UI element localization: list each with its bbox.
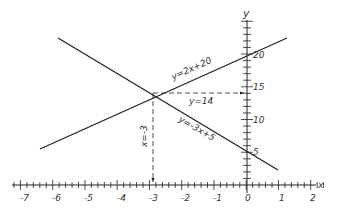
svg-text:1: 1 [279, 193, 285, 203]
svg-text:10: 10 [253, 115, 265, 125]
axis-label-x: x [317, 180, 324, 190]
equation-label-line1: y=2x+20 [169, 55, 213, 82]
linear-equations-diagram: x y y=2x+20 y=-3x+5 y=14 x=-3 -7 -6 -5 -… [0, 0, 337, 211]
svg-text:15: 15 [253, 82, 265, 92]
y-tick-labels: 5 10 15 20 [253, 50, 265, 157]
axis-label-y: y [242, 7, 250, 20]
svg-text:-6: -6 [52, 193, 61, 203]
svg-text:5: 5 [253, 147, 259, 157]
svg-text:-5: -5 [84, 193, 93, 203]
annotation-x-3: x=-3 [139, 125, 149, 148]
svg-text:-1: -1 [213, 193, 222, 203]
svg-text:2: 2 [310, 193, 316, 203]
svg-text:-7: -7 [20, 193, 29, 203]
x-tick-labels: -7 -6 -5 -4 -3 -2 -1 0 1 2 [20, 193, 316, 203]
annotation-y14: y=14 [188, 96, 214, 106]
svg-text:-4: -4 [117, 193, 126, 203]
svg-text:-2: -2 [181, 193, 190, 203]
y-axis [241, 20, 253, 193]
line-y-minus-3x-plus-5 [58, 38, 278, 170]
equation-label-line2: y=-3x+5 [176, 114, 217, 144]
svg-text:20: 20 [253, 50, 265, 60]
x-axis [12, 180, 324, 190]
svg-text:0: 0 [245, 193, 251, 203]
svg-text:-3: -3 [149, 193, 158, 203]
